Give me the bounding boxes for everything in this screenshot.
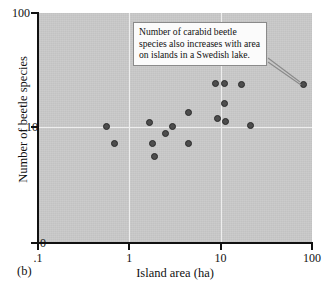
x-axis-line (37, 242, 313, 244)
x-tick-label: 1 (109, 252, 149, 264)
y-axis-title: Number of beetle species (16, 35, 31, 205)
x-tick-label: 10 (201, 252, 241, 264)
panel-label: (b) (17, 264, 32, 279)
gridline-vertical (129, 13, 130, 243)
data-point (162, 130, 169, 137)
x-tick (311, 243, 313, 250)
y-axis-line (37, 12, 39, 244)
x-tick-label: .1 (18, 252, 58, 264)
data-point (146, 119, 153, 126)
x-tick (220, 243, 222, 250)
data-point (111, 140, 118, 147)
x-tick (128, 243, 130, 250)
data-point (222, 118, 229, 125)
data-point (300, 81, 307, 88)
data-point (149, 140, 156, 147)
data-point (221, 80, 228, 87)
x-axis-title: Island area (ha) (38, 266, 312, 281)
annotation-callout: Number of carabid beetle species also in… (133, 22, 267, 66)
data-point (103, 123, 110, 130)
figure-panel-b: .1110100010100 Number of beetle species … (0, 0, 331, 289)
data-point (247, 122, 254, 129)
data-point (185, 140, 192, 147)
y-tick-label: 100 (2, 7, 30, 19)
x-tick-label: 100 (292, 252, 331, 264)
